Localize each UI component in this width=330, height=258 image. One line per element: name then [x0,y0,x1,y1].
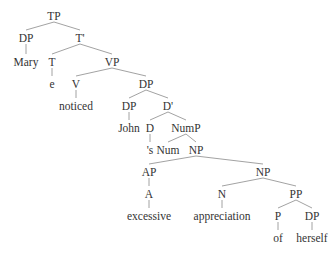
tree-node-v: V [72,78,81,90]
tree-edge-nump-num [168,134,186,142]
tree-node-tbar: T' [75,32,84,44]
tree-node-noticed: noticed [59,100,93,112]
tree-edge-np1-ap [149,156,196,164]
tree-edge-vp-v [76,68,112,76]
tree-edge-dbar-nump [168,112,186,120]
tree-edge-dp2-dp3 [129,90,146,98]
tree-node-of: of [273,232,283,244]
syntax-tree-diagram: TPDPMaryT'TeVPVnoticedDPDPJohnD'D'sNumPN… [0,0,330,258]
tree-node-d: D [146,122,154,134]
tree-node-dp4: DP [305,210,320,222]
tree-node-appreciation: appreciation [194,210,251,223]
tree-edge-np1-np2 [196,156,263,164]
tree-node-ap: AP [142,166,157,178]
tree-edge-pp-p [278,200,296,208]
tree-edge-dp2-dbar [146,90,168,98]
tree-edge-vp-dp2 [112,68,146,76]
tree-node-herself: herself [296,232,327,244]
tree-edge-tbar-vp [80,44,112,54]
tree-node-np2: NP [256,166,271,178]
tree-node-pp: PP [290,188,303,200]
tree-nodes: TPDPMaryT'TeVPVnoticedDPDPJohnD'D'sNumPN… [14,10,328,244]
tree-node-john: John [118,122,140,134]
tree-node-dbar: D' [163,100,173,112]
tree-node-dp1: DP [19,32,34,44]
tree-node-e: e [49,78,54,90]
tree-edge-dbar-d [150,112,168,120]
tree-node-dp3: DP [122,100,137,112]
tree-edge-nump-np1 [186,134,196,142]
tree-node-t: T [48,56,55,68]
tree-node-nump: NumP [171,122,200,134]
tree-node-vp: VP [105,56,120,68]
tree-node-num: Num [157,144,180,156]
tree-node-s: 's [147,144,154,156]
tree-node-p: P [275,210,281,222]
tree-edge-tp-tbar [54,22,80,30]
tree-edge-pp-dp4 [296,200,312,208]
tree-edges [26,22,312,230]
tree-edge-tp-dp1 [26,22,54,30]
tree-node-dp2: DP [139,78,154,90]
tree-node-n: N [218,188,227,200]
tree-edge-np2-pp [263,178,296,186]
tree-node-mary: Mary [14,56,39,69]
tree-edge-np2-n [222,178,263,186]
tree-node-a: A [145,188,154,200]
tree-node-excessive: excessive [127,210,171,222]
tree-edge-tbar-t [52,44,80,54]
tree-node-tp: TP [47,10,60,22]
tree-node-np1: NP [189,144,204,156]
